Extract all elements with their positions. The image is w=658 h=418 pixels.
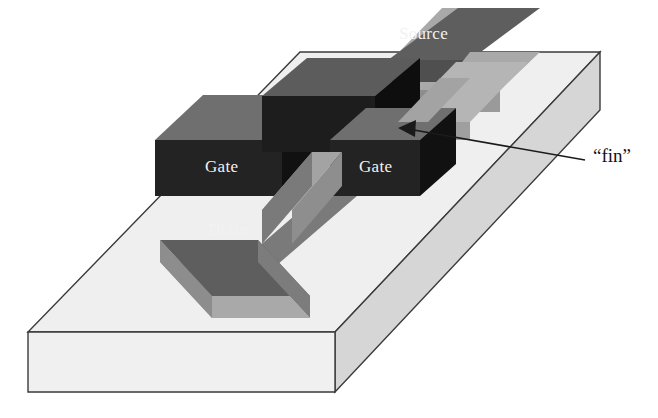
- substrate-front-face: [28, 332, 335, 392]
- gate-left-label: Gate: [205, 157, 238, 177]
- source-label: Source: [399, 24, 448, 44]
- drain-label: Drain: [208, 220, 248, 240]
- finfet-diagram: Source Gate Gate Drain “fin”: [0, 0, 658, 418]
- fin-callout-label: “fin”: [593, 145, 631, 167]
- finfet-scene: [0, 0, 658, 418]
- gate-right-label: Gate: [359, 157, 392, 177]
